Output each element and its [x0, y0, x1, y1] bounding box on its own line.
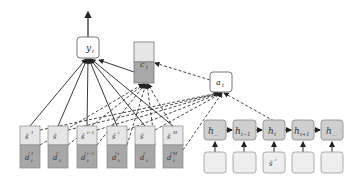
svg-text:i−1: i−1	[87, 151, 94, 156]
rnn-state: h ...	[204, 120, 226, 140]
svg-text:c: c	[140, 60, 145, 69]
svg-text:...: ...	[332, 131, 337, 137]
memory-slot: s̄ · d̄ · t	[48, 126, 68, 168]
svg-text:1: 1	[31, 130, 34, 135]
svg-text:s̄: s̄	[53, 133, 57, 141]
rnn-input	[292, 152, 314, 173]
rnn-state: h t	[263, 120, 285, 140]
svg-text:t+1: t+1	[300, 131, 309, 137]
svg-text:t−1: t−1	[241, 131, 250, 137]
rnn-state: h t−1	[233, 120, 256, 140]
svg-text:y: y	[85, 43, 92, 53]
svg-text:M: M	[172, 151, 178, 156]
rnn-chain: h ... h t−1 h t h t+1 h ...	[204, 120, 343, 173]
memory-slots: s̄ 1 d̄ 1 t s̄ · d̄ · t s̄ i−1 d̄ i−1 t	[20, 126, 183, 168]
memory-slot: s̄ i d̄ i t	[107, 126, 127, 168]
output-node-y: y t	[77, 37, 99, 58]
svg-text:s̄: s̄	[81, 133, 85, 141]
rnn-input	[204, 152, 226, 173]
memory-slot: s̄ M d̄ M t	[163, 126, 183, 168]
svg-text:1: 1	[31, 151, 34, 156]
svg-text:h: h	[268, 126, 274, 136]
rnn-input	[233, 152, 256, 173]
memory-slot: s̄ · d̄ · t	[135, 126, 155, 168]
rnn-input	[321, 152, 343, 173]
svg-text:·: ·	[146, 151, 147, 156]
svg-text:h: h	[235, 126, 241, 136]
svg-text:h: h	[208, 126, 214, 136]
context-vector-c: c t	[134, 42, 154, 83]
memory-slot: s̄ i−1 d̄ i−1 t	[77, 126, 97, 168]
attention-node-a: a t	[210, 72, 232, 92]
svg-text:a: a	[216, 78, 221, 87]
rnn-state: h ...	[321, 120, 343, 140]
svg-text:·: ·	[59, 130, 60, 135]
svg-text:s̄: s̄	[25, 133, 29, 141]
svg-text:·: ·	[146, 130, 147, 135]
svg-text:s̄: s̄	[167, 133, 171, 141]
svg-text:h: h	[326, 126, 332, 136]
svg-text:·: ·	[59, 151, 60, 156]
memory-slot: s̄ 1 d̄ 1 t	[20, 126, 40, 168]
svg-text:s̄: s̄	[140, 133, 144, 141]
svg-text:h: h	[294, 126, 300, 136]
rnn-input: s̄ i	[263, 152, 285, 173]
svg-text:i−1: i−1	[87, 130, 94, 135]
rnn-state: h t+1	[292, 120, 314, 140]
svg-text:M: M	[172, 130, 178, 135]
svg-text:s̄: s̄	[269, 160, 273, 168]
svg-text:...: ...	[214, 131, 219, 137]
attention-diagram: y t c t a t s̄ 1 d̄ 1 t s̄ · d̄ ·	[0, 0, 349, 188]
svg-text:s̄: s̄	[112, 133, 116, 141]
